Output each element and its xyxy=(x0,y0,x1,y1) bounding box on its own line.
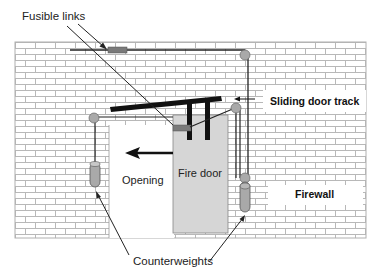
label-sliding-door-track: Sliding door track xyxy=(270,95,359,107)
label-firewall: Firewall xyxy=(295,188,334,200)
fire-door-diagram: Fusible links Sliding door track Opening… xyxy=(0,0,375,278)
fusible-link-door xyxy=(173,125,191,131)
door-hanger-1 xyxy=(187,102,192,140)
label-fusible-links: Fusible links xyxy=(22,10,86,22)
fusible-link-top xyxy=(108,47,127,53)
label-counterweights: Counterweights xyxy=(133,255,213,267)
counterweight-left xyxy=(90,162,100,188)
label-opening: Opening xyxy=(122,174,164,186)
pulley-track-right xyxy=(231,103,241,113)
counterweight-right xyxy=(240,182,250,212)
pulley-left xyxy=(89,113,99,123)
pulley-counterweight-right xyxy=(240,173,250,183)
label-fire-door: Fire door xyxy=(178,167,222,179)
pulley-top-right xyxy=(240,50,250,60)
